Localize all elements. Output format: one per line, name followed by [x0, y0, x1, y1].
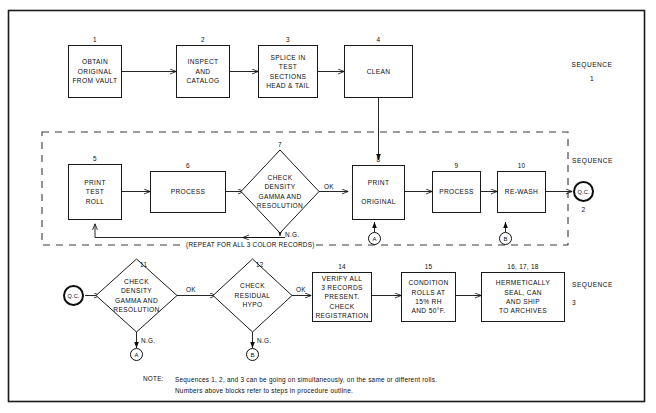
sequence-1-number: 1 — [556, 75, 628, 82]
step-number-6: 6 — [150, 162, 226, 169]
decision-check-density-gamma-resolution-7[interactable]: CHECK DENSITY GAMMA AND RESOLUTION — [241, 150, 319, 233]
node-hermetically-seal-can-ship[interactable]: HERMETICALLY SEAL, CAN AND SHIP TO ARCHI… — [481, 272, 565, 322]
node-inspect-and-catalog[interactable]: INSPECT AND CATALOG — [176, 45, 230, 98]
step-number-7: 7 — [250, 141, 310, 148]
node-process-9[interactable]: PROCESS — [432, 171, 481, 213]
connector-b-sequence2[interactable]: B — [499, 232, 512, 245]
connector-qc-sequence2[interactable]: Q.C. — [573, 181, 594, 202]
step-number-14: 14 — [312, 263, 372, 270]
edge-label-ok-7: OK — [324, 183, 334, 190]
decision-12-label: CHECK RESIDUAL HYPO — [213, 259, 292, 332]
step-number-9: 9 — [432, 162, 481, 169]
step-number-8: 8 — [352, 156, 405, 163]
connector-qc-sequence3[interactable]: Q.C. — [63, 285, 84, 306]
decision-7-label: CHECK DENSITY GAMMA AND RESOLUTION — [241, 150, 319, 233]
sequence-2-label: SEQUENCE — [572, 157, 644, 164]
step-number-1: 1 — [68, 36, 122, 43]
step-number-5: 5 — [68, 155, 122, 162]
decision-check-residual-hypo-12[interactable]: CHECK RESIDUAL HYPO — [213, 259, 292, 332]
step-number-2: 2 — [176, 36, 230, 43]
edge-label-ok-12: OK — [296, 286, 306, 293]
connector-b-sequence3[interactable]: B — [246, 348, 259, 361]
node-print-test-roll[interactable]: PRINT TEST ROLL — [68, 164, 122, 220]
node-clean[interactable]: CLEAN — [344, 45, 413, 98]
sequence-3-label: SEQUENCE — [572, 281, 644, 288]
sequence-2-number: 2 — [573, 206, 594, 213]
connector-a-sequence3[interactable]: A — [130, 348, 143, 361]
node-print-original[interactable]: PRINT ORIGINAL — [352, 165, 405, 220]
flowchart-page: 1 OBTAIN ORIGINAL FROM VAULT 2 INSPECT A… — [0, 0, 656, 413]
node-splice-in-test-sections[interactable]: SPLICE IN TEST SECTIONS HEAD & TAIL — [258, 45, 318, 98]
decision-check-density-gamma-resolution-11[interactable]: CHECK DENSITY GAMMA AND RESOLUTION — [96, 259, 177, 332]
note-line-2: Numbers above blocks refer to steps in p… — [175, 386, 353, 397]
connector-a-sequence2[interactable]: A — [368, 232, 381, 245]
edge-label-ng-7: N.G. — [285, 231, 299, 238]
node-re-wash[interactable]: RE-WASH — [497, 171, 546, 213]
edge-label-ok-11: OK — [186, 286, 196, 293]
step-number-16-17-18: 16, 17, 18 — [481, 263, 565, 270]
step-number-15: 15 — [401, 263, 456, 270]
sequence-1-label: SEQUENCE — [556, 61, 628, 68]
decision-11-label: CHECK DENSITY GAMMA AND RESOLUTION — [96, 259, 177, 332]
node-verify-all-3-records[interactable]: VERIFY ALL 3 RECORDS PRESENT. CHECK REGI… — [312, 272, 372, 322]
node-condition-rolls[interactable]: CONDITION ROLLS AT 15% RH AND 50°F. — [401, 272, 456, 322]
step-number-10: 10 — [497, 162, 546, 169]
edge-label-ng-12: N.G. — [257, 337, 271, 344]
note-line-1: Sequences 1, 2, and 3 can be going on si… — [175, 375, 437, 386]
node-obtain-original-from-vault[interactable]: OBTAIN ORIGINAL FROM VAULT — [68, 45, 122, 98]
sequence-3-number: 3 — [572, 299, 592, 306]
note-label: NOTE: — [143, 375, 164, 382]
step-number-4: 4 — [344, 36, 413, 43]
repeat-color-records-note: (REPEAT FOR ALL 3 COLOR RECORDS) — [185, 241, 316, 248]
edge-label-ng-11: N.G. — [141, 337, 155, 344]
step-number-3: 3 — [258, 36, 318, 43]
node-process-6[interactable]: PROCESS — [150, 171, 226, 213]
